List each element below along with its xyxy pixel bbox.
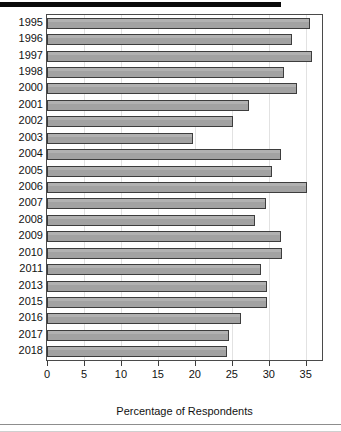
- y-axis-tick-label: 2007: [1, 197, 43, 208]
- bar: [47, 297, 267, 308]
- x-axis-tick-label: 35: [291, 368, 321, 380]
- bar: [47, 248, 282, 259]
- bar: [47, 100, 249, 111]
- y-axis-tick-label: 2018: [1, 345, 43, 356]
- x-axis-tick-label: 20: [180, 368, 210, 380]
- y-axis-tick-label: 2004: [1, 148, 43, 159]
- bar: [47, 346, 227, 357]
- y-axis-tick-label: 2008: [1, 214, 43, 225]
- bar: [47, 198, 266, 209]
- y-axis-tick-label: 1996: [1, 33, 43, 44]
- bar: [47, 264, 261, 275]
- y-axis-tick-label: 2013: [1, 280, 43, 291]
- y-axis-tick-label: 2011: [1, 263, 43, 274]
- bar-chart-figure: 1995199619971998200020012002200320042005…: [0, 0, 341, 432]
- x-axis: 05101520253035: [0, 361, 341, 391]
- y-axis-tick-label: 2003: [1, 132, 43, 143]
- y-axis-category-labels: 1995199619971998200020012002200320042005…: [0, 14, 43, 361]
- y-axis-tick-label: 2017: [1, 329, 43, 340]
- y-axis-tick-label: 1997: [1, 50, 43, 61]
- bar: [47, 18, 310, 29]
- y-axis-tick-label: 2010: [1, 247, 43, 258]
- y-axis-tick-label: 2016: [1, 312, 43, 323]
- x-axis-tick-label: 15: [143, 368, 173, 380]
- x-axis-tick: [121, 361, 122, 366]
- bar: [47, 67, 284, 78]
- x-axis-title: Percentage of Respondents: [46, 405, 323, 417]
- x-axis-tick-label: 30: [254, 368, 284, 380]
- bar: [47, 166, 272, 177]
- bar: [47, 215, 255, 226]
- bar: [47, 83, 297, 94]
- bar: [47, 281, 267, 292]
- x-axis-tick-label: 10: [106, 368, 136, 380]
- plot-area: [46, 14, 323, 361]
- bar: [47, 116, 233, 127]
- bottom-rule: [0, 424, 341, 425]
- bar: [47, 133, 193, 144]
- bar: [47, 51, 312, 62]
- x-axis-tick-label: 25: [217, 368, 247, 380]
- y-axis-tick-label: 2000: [1, 82, 43, 93]
- bar: [47, 149, 281, 160]
- x-axis-tick-label: 0: [32, 368, 62, 380]
- y-axis-tick-label: 2005: [1, 165, 43, 176]
- y-axis-tick-label: 2001: [1, 99, 43, 110]
- bar: [47, 330, 229, 341]
- x-axis-tick: [306, 361, 307, 366]
- x-axis-tick: [47, 361, 48, 366]
- y-axis-tick-label: 1995: [1, 17, 43, 28]
- bar: [47, 313, 241, 324]
- x-axis-tick: [269, 361, 270, 366]
- y-axis-tick-label: 2015: [1, 296, 43, 307]
- x-axis-tick: [84, 361, 85, 366]
- bar: [47, 231, 281, 242]
- bar: [47, 34, 292, 45]
- y-axis-tick-label: 2009: [1, 230, 43, 241]
- x-axis-tick: [195, 361, 196, 366]
- x-axis-tick: [158, 361, 159, 366]
- bar: [47, 182, 307, 193]
- y-axis-tick-label: 2002: [1, 115, 43, 126]
- x-axis-tick-label: 5: [69, 368, 99, 380]
- x-axis-tick: [232, 361, 233, 366]
- y-axis-tick-label: 1998: [1, 66, 43, 77]
- y-axis-tick-label: 2006: [1, 181, 43, 192]
